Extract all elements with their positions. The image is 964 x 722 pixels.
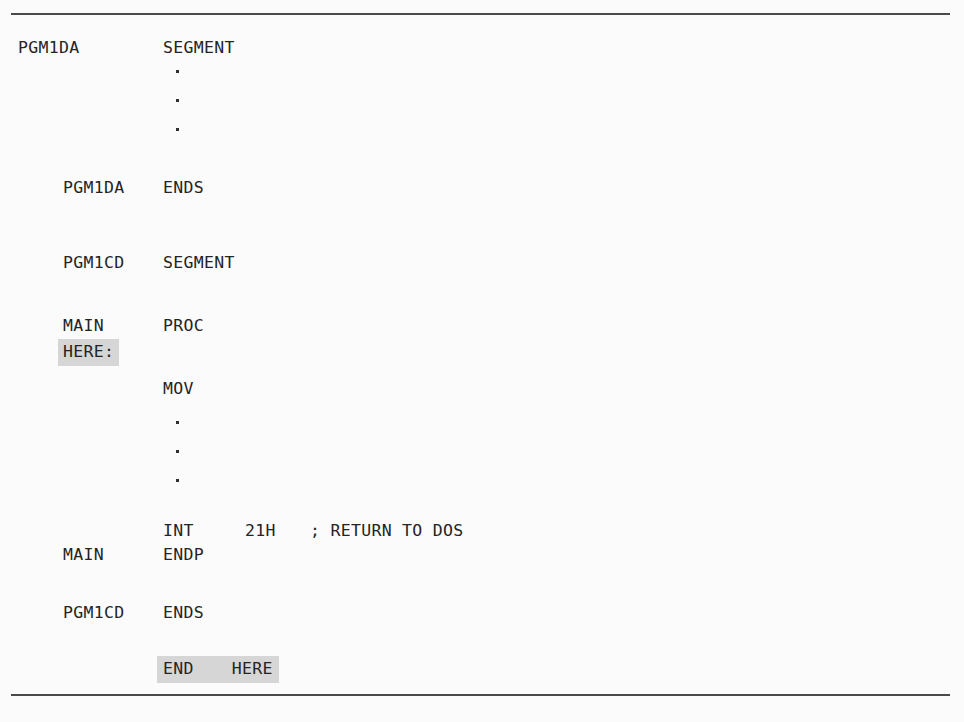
procedure-name-main: MAIN [63,315,104,337]
directive-ends-code: ENDS [163,602,204,624]
code-line-end-here: ENDHERE [0,659,964,681]
ellipsis-dot [176,70,179,73]
code-listing: PGM1DA SEGMENT PGM1DA ENDS PGM1CD SEGMEN… [0,0,964,722]
segment-name-pgm1da: PGM1DA [18,37,79,59]
directive-segment-code: SEGMENT [163,252,235,274]
directive-ends: ENDS [163,177,204,199]
segment-name-pgm1cd: PGM1CD [63,252,124,274]
highlighted-label-here: HERE: [58,339,119,366]
operand-here: HERE [232,659,273,678]
procedure-name-main-endp: MAIN [63,544,104,566]
code-line-endp: MAIN ENDP [0,544,964,566]
operand-21h: 21H [245,520,276,542]
directive-proc: PROC [163,315,204,337]
code-line-segment-data: PGM1DA SEGMENT [0,37,964,59]
ellipsis-dot [176,99,179,102]
highlighted-end-directive: ENDHERE [157,656,279,683]
instruction-int: INT [163,520,194,542]
ellipsis-dot [176,421,179,424]
ellipsis-dot [176,128,179,131]
code-line-label-here: HERE: [0,342,964,364]
code-line-segment-code: PGM1CD SEGMENT [0,252,964,274]
figure-bottom-rule [11,694,950,696]
assembly-code-figure: PGM1DA SEGMENT PGM1DA ENDS PGM1CD SEGMEN… [0,0,964,722]
comment-return-to-dos: ; RETURN TO DOS [310,520,464,542]
segment-name-pgm1cd-ends: PGM1CD [63,602,124,624]
directive-segment: SEGMENT [163,37,235,59]
directive-end: END [163,659,194,678]
ellipsis-dot [176,479,179,482]
segment-name-pgm1da-ends: PGM1DA [63,177,124,199]
code-line-mov: MOV [0,378,964,400]
directive-endp: ENDP [163,544,204,566]
code-line-ends-data: PGM1DA ENDS [0,177,964,199]
code-line-proc: MAIN PROC [0,315,964,337]
ellipsis-dot [176,450,179,453]
code-line-int-21h: INT 21H ; RETURN TO DOS [0,520,964,542]
code-line-ends-code: PGM1CD ENDS [0,602,964,624]
instruction-mov: MOV [163,378,194,400]
